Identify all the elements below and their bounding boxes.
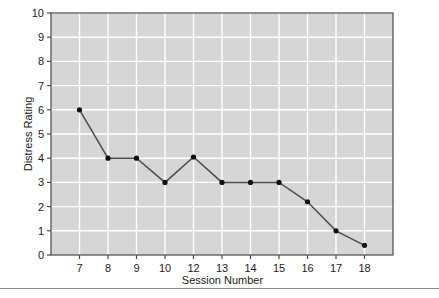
x-tick-label: 17 — [330, 262, 342, 274]
x-tick-label: 16 — [301, 262, 313, 274]
x-axis-title: Session Number — [51, 274, 394, 286]
y-tick-label: 3 — [22, 176, 44, 188]
y-tick-label: 2 — [22, 201, 44, 213]
y-tick-label: 5 — [22, 128, 44, 140]
y-tick-label: 1 — [22, 225, 44, 237]
y-tick-label: 4 — [22, 152, 44, 164]
x-tick-label: 14 — [244, 262, 256, 274]
x-tick-label: 15 — [273, 262, 285, 274]
x-tick-label: 12 — [187, 262, 199, 274]
x-tick-label: 9 — [133, 262, 139, 274]
x-tick-label: 10 — [159, 262, 171, 274]
x-tick-label: 8 — [105, 262, 111, 274]
y-tick-label: 9 — [22, 31, 44, 43]
y-tick-label: 6 — [22, 104, 44, 116]
line-chart-plot — [0, 0, 439, 298]
x-tick-label: 18 — [358, 262, 370, 274]
chart-figure: Distress Rating Session Number 012345678… — [0, 0, 439, 298]
y-tick-label: 7 — [22, 80, 44, 92]
y-tick-label: 10 — [22, 7, 44, 19]
x-tick-label: 7 — [76, 262, 82, 274]
y-tick-label: 0 — [22, 249, 44, 261]
footer-divider — [0, 288, 439, 289]
x-tick-label: 13 — [216, 262, 228, 274]
y-tick-label: 8 — [22, 55, 44, 67]
